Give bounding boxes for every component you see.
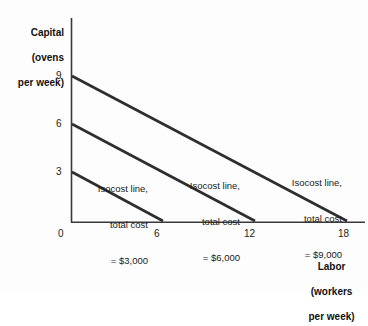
y-axis-title-line-2: (ovens bbox=[32, 52, 64, 63]
isocost-annotation-3000: Isocost line, total cost = $3,000 bbox=[60, 159, 148, 291]
isocost-annotation-9000: Isocost line, total cost = $9,000 bbox=[252, 153, 342, 285]
y-tick-label-9: 9 bbox=[56, 70, 62, 82]
isocost-annotation-6000: Isocost line, total cost = $6,000 bbox=[152, 156, 240, 288]
isocost-annotation-6000-line-1: Isocost line, bbox=[152, 180, 240, 192]
isocost-annotation-3000-line-3: = $3,000 bbox=[60, 255, 148, 267]
isocost-annotation-3000-line-1: Isocost line, bbox=[60, 183, 148, 195]
isocost-annotation-6000-line-2: total cost bbox=[152, 216, 240, 228]
isocost-annotation-9000-line-3: = $9,000 bbox=[252, 249, 342, 261]
x-axis-title-line-3: per week) bbox=[308, 311, 354, 322]
isocost-annotation-9000-line-1: Isocost line, bbox=[252, 177, 342, 189]
isocost-annotation-3000-line-2: total cost bbox=[60, 219, 148, 231]
isocost-annotation-6000-line-3: = $6,000 bbox=[152, 252, 240, 264]
y-tick-label-6: 6 bbox=[56, 118, 62, 130]
y-axis-title: Capital (ovens per week) bbox=[0, 14, 64, 102]
isocost-annotation-9000-line-2: total cost bbox=[252, 213, 342, 225]
x-axis-title-line-2: (workers bbox=[311, 286, 353, 297]
y-axis-title-line-1: Capital bbox=[31, 27, 64, 38]
